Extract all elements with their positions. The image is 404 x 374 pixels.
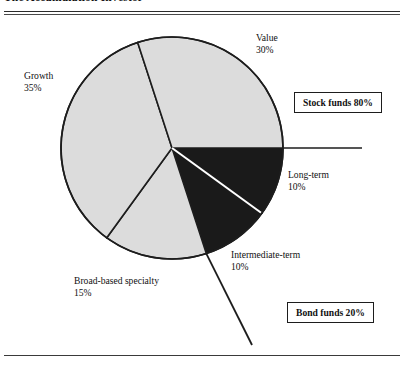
slice-label-value: Value 30% [256, 32, 278, 55]
slice-label-broad-based-specialty-percent: 15% [74, 287, 159, 299]
slice-label-intermediate-term: Intermediate-term 10% [231, 249, 300, 272]
slice-label-intermediate-term-name: Intermediate-term [231, 249, 300, 261]
slice-label-long-term-name: Long-term [288, 169, 329, 181]
slice-label-growth-percent: 35% [24, 82, 53, 94]
callout-stock-funds: Stock funds 80% [294, 92, 382, 113]
callout-bond-funds: Bond funds 20% [287, 302, 374, 323]
slice-label-broad-based-specialty: Broad-based specialty 15% [74, 275, 159, 298]
pie-slices [61, 37, 283, 259]
footer-rule [4, 355, 400, 356]
slice-label-growth-name: Growth [24, 70, 53, 82]
slice-label-growth: Growth 35% [24, 70, 53, 93]
slice-label-intermediate-term-percent: 10% [231, 261, 300, 273]
slice-label-value-percent: 30% [256, 44, 278, 56]
slice-label-long-term-percent: 10% [288, 181, 329, 193]
slice-label-value-name: Value [256, 32, 278, 44]
slice-label-long-term: Long-term 10% [288, 169, 329, 192]
slice-label-broad-based-specialty-name: Broad-based specialty [74, 275, 159, 287]
pie-chart: Value 30% Growth 35% Long-term 10% Inter… [0, 0, 404, 374]
